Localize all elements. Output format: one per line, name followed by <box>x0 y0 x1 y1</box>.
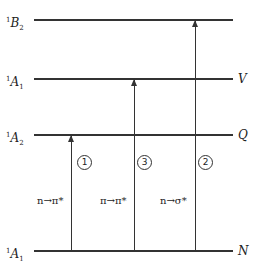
state-label-V: V <box>238 72 247 86</box>
level-line-1A1-N <box>34 250 233 252</box>
arrow-transition-2 <box>195 21 196 250</box>
level-line-1B2 <box>34 19 233 21</box>
state-label-1B2: 1B2 <box>6 14 24 34</box>
arrow-transition-3 <box>134 80 135 250</box>
state-label-N: N <box>238 244 249 258</box>
state-label-1A1-ground: 1A1 <box>6 245 24 265</box>
transition-label-n-sigma: n→σ* <box>160 195 187 206</box>
transition-number-3: 3 <box>137 155 152 170</box>
state-label-1A2: 1A2 <box>6 129 24 149</box>
arrow-transition-1 <box>71 136 72 250</box>
transition-label-pi-pi: π→π* <box>100 195 127 206</box>
transition-number-1: 1 <box>77 155 92 170</box>
transition-label-n-pi: n→π* <box>37 195 63 206</box>
transition-number-2: 2 <box>198 155 213 170</box>
state-label-Q: Q <box>238 128 248 142</box>
state-label-1A1-upper: 1A1 <box>6 73 24 93</box>
